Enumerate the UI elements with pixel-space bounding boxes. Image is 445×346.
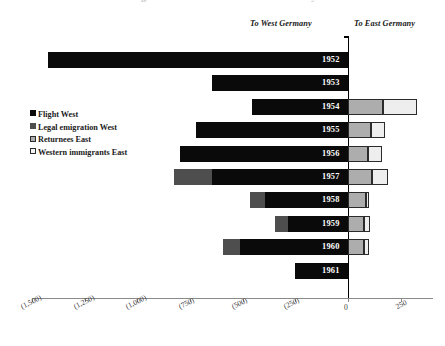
bar-year-label: 1961: [322, 266, 340, 275]
segment-legal-emigration-west: [174, 169, 212, 185]
segment-returnees-east: [348, 146, 368, 162]
chart-legend: Flight WestLegal emigration WestReturnee…: [30, 104, 127, 154]
chart-root: Migration between East and West Germany …: [0, 0, 445, 346]
segment-western-immigrants-east: [364, 239, 369, 255]
plot-area: (1,500)(1,250)(1,000)(750)(500)(250)0250…: [0, 0, 445, 346]
legend-item-western[interactable]: Western immigrants East: [30, 142, 127, 155]
segment-returnees-east: [348, 239, 364, 255]
legend-swatch-western-icon: [30, 148, 36, 154]
legend-swatch-legal-icon: [30, 123, 36, 129]
zero-axis-cap: [344, 36, 349, 38]
legend-swatch-returnees-icon: [30, 136, 36, 142]
bar-year-label: 1958: [322, 195, 340, 204]
bar-row: 1961: [0, 263, 445, 279]
bar-year-label: 1955: [322, 125, 340, 134]
x-axis-tick-label: 250: [394, 298, 408, 311]
x-axis-tick-label: (1,500): [19, 293, 43, 311]
x-axis-tick: [348, 298, 349, 302]
bar-year-label: 1956: [322, 149, 340, 158]
segment-western-immigrants-east: [364, 216, 370, 232]
segment-western-immigrants-east: [372, 169, 388, 185]
segment-western-immigrants-east: [371, 122, 385, 138]
segment-returnees-east: [348, 99, 383, 115]
bar-year-label: 1957: [322, 172, 340, 181]
legend-item-flight[interactable]: Flight West: [30, 104, 127, 117]
legend-item-returnees[interactable]: Returnees East: [30, 129, 127, 142]
segment-flight-west: [48, 52, 348, 68]
legend-item-legal[interactable]: Legal emigration West: [30, 117, 127, 130]
segment-returnees-east: [348, 192, 366, 208]
segment-returnees-east: [348, 169, 372, 185]
segment-returnees-east: [348, 216, 364, 232]
segment-legal-emigration-west: [223, 239, 241, 255]
segment-returnees-east: [348, 122, 371, 138]
bar-row: 1960: [0, 239, 445, 255]
legend-swatch-flight-icon: [30, 110, 36, 116]
segment-western-immigrants-east: [383, 99, 417, 115]
segment-legal-emigration-west: [275, 216, 288, 232]
bar-year-label: 1960: [322, 242, 340, 251]
bar-row: 1959: [0, 216, 445, 232]
bar-year-label: 1952: [322, 55, 340, 64]
segment-western-immigrants-east: [368, 146, 382, 162]
legend-label: Western immigrants East: [38, 148, 127, 157]
bar-year-label: 1953: [322, 78, 340, 87]
x-axis-tick-label: (1,000): [124, 293, 148, 311]
bar-year-label: 1959: [322, 219, 340, 228]
bar-row: 1953: [0, 75, 445, 91]
segment-legal-emigration-west: [250, 192, 265, 208]
bar-row: 1952: [0, 52, 445, 68]
bar-year-label: 1954: [322, 102, 340, 111]
x-axis-tick-label: (1,250): [72, 293, 96, 311]
x-axis-tick-label: 0: [344, 303, 348, 312]
segment-western-immigrants-east: [366, 192, 369, 208]
bar-row: 1958: [0, 192, 445, 208]
bar-row: 1957: [0, 169, 445, 185]
